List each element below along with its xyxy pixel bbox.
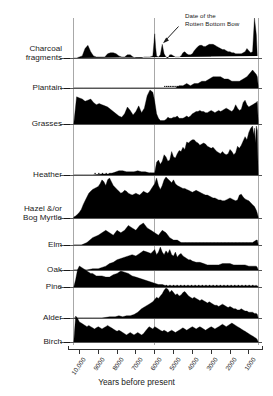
taxon-label-grasses: Grasses (0, 119, 62, 128)
taxon-label-hazel-line1: Hazel &/or (0, 204, 62, 213)
taxon-label-charcoal-line2: fragments (0, 53, 62, 62)
series-area-elm (74, 223, 258, 245)
x-axis-title: Years before present (0, 377, 273, 387)
taxon-label-hazel-line2: Bog Myrtle (0, 213, 62, 222)
series-area-alder (74, 288, 258, 318)
taxon-label-alder: Alder (0, 313, 62, 322)
series-area-birch (74, 316, 258, 342)
label-leader-lines (64, 59, 70, 343)
annotation-arrow-icon (163, 27, 179, 44)
taxon-label-heather: Heather (0, 170, 62, 179)
taxon-label-oak: Oak (0, 265, 62, 274)
series-area-plantain (74, 70, 258, 88)
x-axis (68, 346, 263, 354)
annotation-line-2: Rotten Bottom Bow (185, 20, 239, 28)
series-area-heather (74, 126, 258, 175)
taxon-panels (60, 18, 262, 343)
series-area-grasses (74, 90, 258, 124)
taxon-label-pine: Pine (0, 282, 62, 291)
taxon-label-charcoal-line1: Charcoal (0, 44, 62, 53)
series-area-hazel-or-bog-myrtle (74, 177, 258, 218)
pollen-diagram-figure: Date of the Rotten Bottom Bow Charcoal f… (0, 0, 273, 396)
taxon-label-birch: Birch (0, 337, 62, 346)
taxon-label-plantain: Plantain (0, 83, 62, 92)
annotation-line-1: Date of the (185, 12, 216, 20)
taxon-label-elm: Elm (0, 240, 62, 249)
series-area-oak (74, 247, 258, 270)
